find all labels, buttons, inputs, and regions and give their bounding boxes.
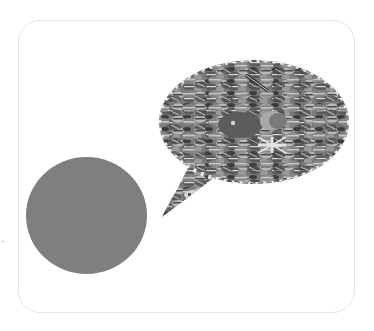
illustration-stage xyxy=(0,0,374,331)
flag-speech-bubble-icon xyxy=(150,55,355,225)
gray-circle xyxy=(26,157,147,274)
edge-artifact xyxy=(2,241,4,242)
